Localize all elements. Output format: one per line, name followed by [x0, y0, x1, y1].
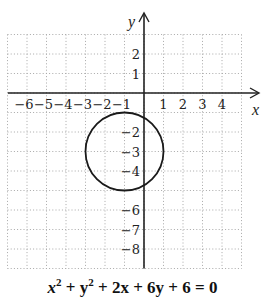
- caption-rest: + 2x + 6y + 6 = 0: [94, 278, 218, 297]
- equation-caption: x2 + y2 + 2x + 6y + 6 = 0: [0, 276, 265, 298]
- y-tick-label: −8: [121, 242, 140, 257]
- coordinate-plot: −6−5−4−3−2−1123421−2−3−4−6−7−8 x y: [0, 0, 265, 303]
- caption-x: x: [48, 278, 57, 297]
- y-tick-label: −4: [121, 164, 140, 179]
- x-tick-label: −2: [92, 97, 111, 112]
- x-tick-label: −3: [73, 97, 92, 112]
- caption-plus-y: + y: [62, 278, 89, 297]
- y-tick-label: 2: [132, 47, 140, 62]
- x-tick-label: 3: [198, 97, 206, 112]
- y-tick-label: −7: [121, 223, 140, 238]
- x-tick-label: 4: [218, 97, 226, 112]
- x-tick-label: 1: [159, 97, 167, 112]
- x-tick-label: −1: [112, 97, 131, 112]
- x-tick-label: −5: [34, 97, 53, 112]
- y-tick-label: −3: [121, 145, 140, 160]
- x-axis-label: x: [251, 101, 259, 118]
- x-tick-label: 2: [179, 97, 187, 112]
- x-tick-label: −6: [14, 97, 33, 112]
- x-tick-label: −4: [53, 97, 72, 112]
- y-axis-label: y: [126, 13, 136, 31]
- y-tick-label: 1: [132, 67, 140, 82]
- y-tick-label: −2: [121, 125, 140, 140]
- y-tick-label: −6: [121, 203, 140, 218]
